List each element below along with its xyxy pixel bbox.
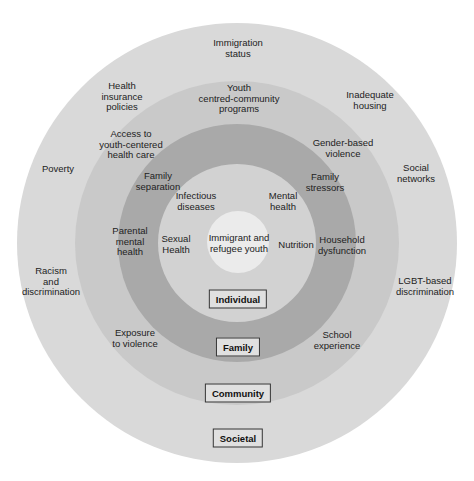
factor-lgbt-discrimination: LGBT-based discrimination xyxy=(396,276,454,297)
core-label: Immigrant and refugee youth xyxy=(209,233,270,254)
factor-infectious-diseases: Infectious diseases xyxy=(176,191,217,212)
factor-sexual-health: Sexual Health xyxy=(161,234,190,255)
factor-access-health-care: Access to youth-centered health care xyxy=(99,129,162,161)
factor-gender-based-violence: Gender-based violence xyxy=(313,138,374,159)
factor-poverty: Poverty xyxy=(42,164,74,175)
factor-exposure-violence: Exposure to violence xyxy=(112,328,157,349)
factor-school-experience: School experience xyxy=(314,330,360,351)
level-box-societal: Societal xyxy=(213,429,263,448)
level-box-family: Family xyxy=(216,338,260,357)
factor-immigration-status: Immigration status xyxy=(213,38,263,59)
factor-youth-programs: Youth centred-community programs xyxy=(199,83,280,115)
factor-racism-discrimination: Racism and discrimination xyxy=(22,266,80,298)
factor-health-insurance: Health insurance policies xyxy=(101,81,142,113)
factor-family-separation: Family separation xyxy=(136,171,180,192)
factor-inadequate-housing: Inadequate housing xyxy=(346,90,394,111)
factor-social-networks: Social networks xyxy=(397,163,435,184)
ecological-diagram: Immigrant and refugee youth Infectious d… xyxy=(0,0,474,481)
factor-nutrition: Nutrition xyxy=(278,240,313,251)
factor-mental-health: Mental health xyxy=(269,191,298,212)
level-box-individual: Individual xyxy=(209,290,267,309)
factor-family-stressors: Family stressors xyxy=(306,172,345,193)
factor-household-dysfunction: Household dysfunction xyxy=(318,235,366,256)
level-box-community: Community xyxy=(205,384,271,403)
factor-parental-mental-health: Parental mental health xyxy=(112,226,147,258)
